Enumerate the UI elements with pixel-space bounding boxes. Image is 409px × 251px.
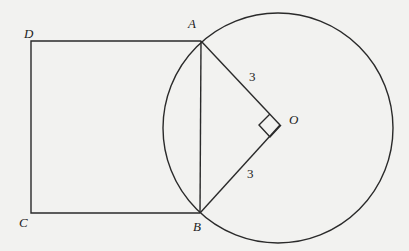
label-c: C — [19, 215, 28, 230]
label-a: A — [187, 16, 196, 31]
label-o: O — [289, 112, 299, 127]
label-d: D — [23, 26, 34, 41]
label-b: B — [193, 219, 201, 234]
label-ob-length: 3 — [247, 166, 254, 181]
label-oa-length: 3 — [249, 69, 256, 84]
geometry-diagram: D A C B O 3 3 — [0, 0, 409, 251]
